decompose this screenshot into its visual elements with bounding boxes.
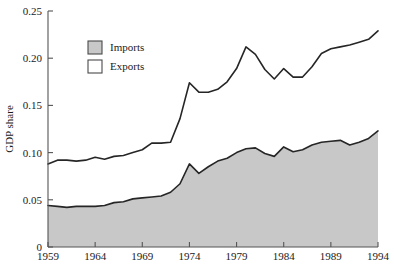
x-tick-label: 1959 xyxy=(37,250,60,262)
gdp-share-area-chart: 00.050.100.150.200.25 195919641969197419… xyxy=(0,0,394,275)
y-tick-label: 0.05 xyxy=(23,194,43,206)
x-tick-label: 1984 xyxy=(273,250,296,262)
x-tick-label: 1969 xyxy=(131,250,154,262)
legend-swatch-exports xyxy=(88,60,102,73)
y-tick-label: 0.10 xyxy=(23,147,43,159)
legend-swatch-imports xyxy=(88,41,102,54)
y-tick-label: 0.20 xyxy=(23,52,43,64)
x-tick-label: 1974 xyxy=(178,250,201,262)
y-axis-title: GDP share xyxy=(3,105,15,153)
legend-label-exports: Exports xyxy=(110,60,144,72)
chart-figure: 00.050.100.150.200.25 195919641969197419… xyxy=(0,0,394,275)
legend-label-imports: Imports xyxy=(110,41,144,53)
x-tick-label: 1964 xyxy=(84,250,107,262)
y-tick-label: 0.25 xyxy=(23,5,43,17)
x-tick-label: 1989 xyxy=(320,250,343,262)
x-tick-label: 1994 xyxy=(367,250,390,262)
y-axis-tick-labels: 00.050.100.150.200.25 xyxy=(23,5,43,253)
y-tick-label: 0.15 xyxy=(23,99,43,111)
x-tick-label: 1979 xyxy=(226,250,249,262)
x-axis-tick-labels: 19591964196919741979198419891994 xyxy=(37,250,390,262)
